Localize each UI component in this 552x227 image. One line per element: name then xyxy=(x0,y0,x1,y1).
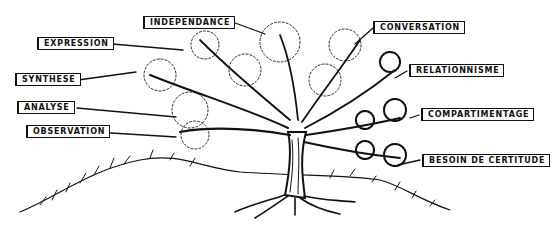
label-relationnisme: RELATIONNISME xyxy=(409,64,504,77)
label-besoin-de-certitude: BESOIN DE CERTITUDE xyxy=(422,154,550,167)
label-independance: INDEPENDANCE xyxy=(143,16,235,29)
tree-diagram: INDEPENDANCE EXPRESSION SYNTHESE ANALYSE… xyxy=(0,0,552,227)
hill-outline xyxy=(20,158,450,212)
label-analyse: ANALYSE xyxy=(17,101,75,114)
branch-left-low xyxy=(180,129,290,135)
label-synthese: SYNTHESE xyxy=(15,73,81,86)
trunk xyxy=(285,132,306,198)
branch-left-high xyxy=(200,40,290,120)
branch-up xyxy=(280,35,298,120)
label-observation: OBSERVATION xyxy=(26,125,110,138)
label-conversation: CONVERSATION xyxy=(373,21,465,34)
label-expression: EXPRESSION xyxy=(37,37,114,50)
label-compartimentage: COMPARTIMENTAGE xyxy=(421,108,534,121)
roots xyxy=(235,195,355,218)
